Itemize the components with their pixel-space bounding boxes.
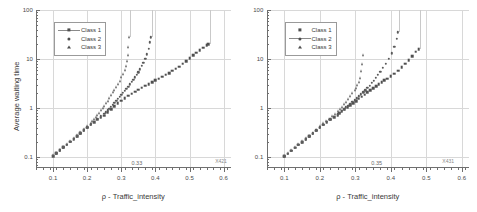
legend-symbol-circle (67, 37, 70, 40)
data-point (127, 45, 129, 48)
data-point (55, 151, 57, 154)
legend-symbol-triangle (67, 46, 71, 49)
data-point (79, 131, 81, 134)
series-class-3 (0, 0, 239, 212)
data-point (122, 72, 124, 75)
legend-symbol-triangle (298, 46, 302, 49)
data-point (358, 80, 360, 83)
chart-panel-right: 0.10.20.30.40.50.60.1110100Class 1Class … (239, 0, 477, 212)
data-point (308, 134, 310, 137)
legend-marker-icon (289, 35, 311, 43)
data-point (112, 91, 114, 94)
legend-item-class-1[interactable]: Class 1 (58, 26, 101, 35)
legend-marker-icon (58, 35, 80, 43)
legend-item-class-2[interactable]: Class 2 (289, 35, 332, 44)
legend-label: Class 3 (312, 44, 332, 50)
data-point (322, 121, 324, 124)
legend-marker-icon (289, 43, 311, 51)
data-point (356, 83, 358, 86)
data-point (297, 142, 299, 145)
data-point (117, 82, 119, 85)
data-point (325, 119, 327, 122)
data-point (312, 131, 314, 134)
asymptote-line (399, 10, 400, 32)
data-point (108, 96, 110, 99)
asymptote-line (210, 10, 211, 44)
legend-label: Class 2 (81, 36, 101, 42)
legend-symbol-circle (298, 37, 301, 40)
data-point (315, 128, 317, 131)
figure-two-panel-scatter: 0.10.20.30.40.50.60.1110100Class 1Class … (0, 0, 477, 212)
data-point (59, 148, 61, 151)
data-point (113, 88, 115, 91)
data-point (360, 69, 362, 72)
data-point (127, 53, 129, 56)
legend-item-class-3[interactable]: Class 3 (58, 43, 101, 52)
data-point (73, 136, 75, 139)
data-point (305, 137, 307, 140)
data-point (347, 97, 349, 100)
data-point (52, 154, 54, 157)
asymptote-line (152, 10, 153, 37)
data-point (115, 85, 117, 88)
legend-marker-icon (58, 26, 80, 34)
data-point (283, 154, 285, 157)
chart-corner-tag: X421 (215, 158, 227, 164)
data-point (69, 139, 71, 142)
legend-label: Class 3 (81, 44, 101, 50)
data-point (331, 114, 333, 117)
x-axis-title: ρ - Traffic_intensity (102, 192, 165, 201)
chart-annotation: 0.35 (371, 160, 382, 166)
data-point (119, 79, 121, 82)
data-point (290, 148, 292, 151)
data-point (125, 64, 127, 67)
legend-label: Class 1 (81, 27, 101, 33)
data-point (83, 127, 85, 130)
data-point (361, 62, 363, 65)
data-point (86, 124, 88, 127)
data-point (328, 117, 330, 120)
legend-label: Class 1 (312, 27, 332, 33)
data-point (345, 100, 347, 103)
legend-symbol-square (67, 29, 70, 32)
legend-marker-icon (289, 26, 311, 34)
legend-label: Class 2 (312, 36, 332, 42)
data-point (319, 124, 321, 127)
data-point (362, 53, 364, 56)
data-point (110, 94, 112, 97)
data-point (349, 94, 351, 97)
y-axis-title: Average waiting time (12, 62, 21, 131)
data-point (294, 145, 296, 148)
legend-item-class-2[interactable]: Class 2 (58, 35, 101, 44)
asymptote-line (130, 10, 131, 37)
data-point (301, 140, 303, 143)
data-point (126, 59, 128, 62)
data-point (359, 76, 361, 79)
data-point (351, 92, 353, 95)
data-point (76, 134, 78, 137)
data-point (355, 86, 357, 89)
legend-item-class-1[interactable]: Class 1 (289, 26, 332, 35)
asymptote-line (420, 10, 421, 49)
data-point (287, 151, 289, 154)
series-class-3 (239, 0, 477, 212)
chart-annotation: 0.33 (132, 160, 143, 166)
data-point (124, 68, 126, 71)
data-point (334, 112, 336, 115)
x-axis-title: ρ - Traffic_intensity (336, 192, 399, 201)
legend-symbol-square (298, 29, 301, 32)
chart-legend[interactable]: Class 1Class 2Class 3 (285, 22, 337, 56)
data-point (62, 145, 64, 148)
legend-marker-icon (58, 43, 80, 51)
chart-legend[interactable]: Class 1Class 2Class 3 (54, 22, 106, 56)
data-point (66, 142, 68, 145)
data-point (120, 75, 122, 78)
chart-corner-tag: X431 (442, 158, 454, 164)
legend-item-class-3[interactable]: Class 3 (289, 43, 332, 52)
chart-panel-left: 0.10.20.30.40.50.60.1110100Class 1Class … (0, 0, 239, 212)
